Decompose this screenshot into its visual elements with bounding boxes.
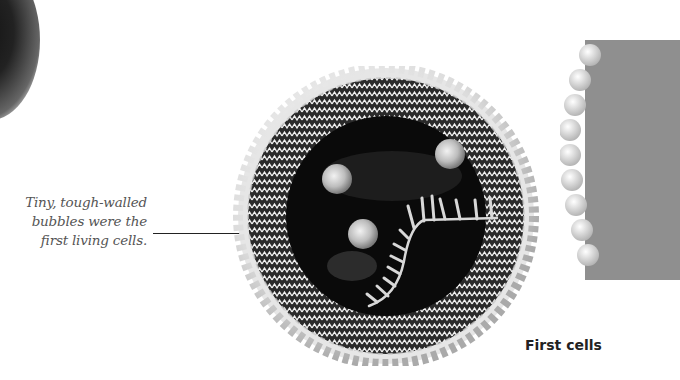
caption-line-1: Tiny, tough-walled bbox=[0, 193, 147, 212]
illustration-caption: Tiny, tough-walled bubbles were the firs… bbox=[0, 193, 147, 250]
protocell-illustration bbox=[232, 66, 540, 366]
caption-line-3: first living cells. bbox=[0, 231, 147, 250]
membrane-fragment-illustration bbox=[560, 40, 680, 280]
figure-label: First cells bbox=[525, 337, 602, 353]
vesicle bbox=[435, 139, 465, 169]
dark-organism-fragment bbox=[0, 0, 40, 120]
vesicle bbox=[348, 219, 378, 249]
vesicle bbox=[322, 164, 352, 194]
caption-line-2: bubbles were the bbox=[0, 212, 147, 231]
